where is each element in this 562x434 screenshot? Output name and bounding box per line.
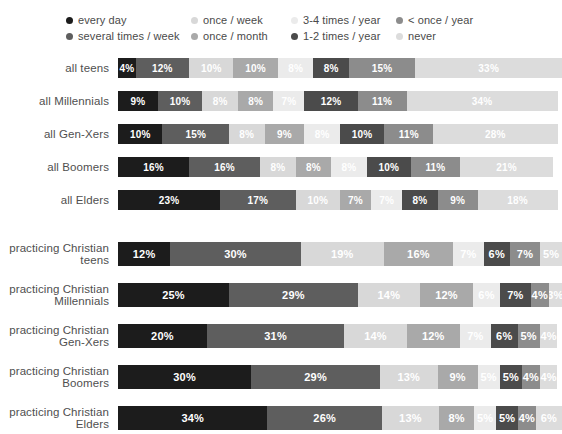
- bar-segment[interactable]: 5%: [474, 406, 496, 430]
- bar-segment[interactable]: 13%: [382, 406, 439, 430]
- legend-swatch-dot-icon: [396, 17, 403, 24]
- bar-segment[interactable]: 12%: [136, 58, 189, 78]
- bar-segment[interactable]: 7%: [460, 324, 491, 348]
- bar-segment[interactable]: 10%: [158, 91, 202, 111]
- bar-segment[interactable]: 8%: [278, 58, 314, 78]
- bar-segment[interactable]: 12%: [304, 91, 357, 111]
- bar-segment[interactable]: 8%: [439, 406, 474, 430]
- bar-segment[interactable]: 17%: [220, 190, 295, 210]
- bar-segment[interactable]: 8%: [260, 157, 296, 177]
- bar-segment[interactable]: 30%: [118, 365, 251, 389]
- bar-segment[interactable]: 13%: [380, 365, 438, 389]
- bar-segment[interactable]: 18%: [478, 190, 558, 210]
- bar-segment[interactable]: 6%: [536, 406, 562, 430]
- bar-segment[interactable]: 6%: [491, 324, 518, 348]
- bar-segment[interactable]: 31%: [207, 324, 345, 348]
- bar-segment[interactable]: 10%: [340, 124, 384, 144]
- legend-item[interactable]: never: [396, 29, 506, 43]
- bar-segment[interactable]: 10%: [367, 157, 411, 177]
- bar-segment[interactable]: 10%: [296, 190, 340, 210]
- bar-segment[interactable]: 7%: [500, 283, 531, 307]
- legend-item[interactable]: once / week: [191, 13, 291, 27]
- bar-segment[interactable]: 11%: [411, 157, 460, 177]
- bar-segment[interactable]: 11%: [384, 124, 433, 144]
- row-label-line: practicing Christian: [0, 324, 109, 337]
- bar-segment[interactable]: 16%: [189, 157, 260, 177]
- legend-item[interactable]: < once / year: [396, 13, 506, 27]
- bar-segment[interactable]: 5%: [496, 406, 518, 430]
- bar-segment[interactable]: 5%: [518, 324, 540, 348]
- bar-segment[interactable]: 34%: [407, 91, 558, 111]
- bar-segment[interactable]: 33%: [415, 58, 562, 78]
- legend-item[interactable]: 1-2 times / year: [291, 29, 396, 43]
- bar-segment[interactable]: 16%: [118, 157, 189, 177]
- bar-segment[interactable]: 16%: [384, 242, 454, 266]
- bar-segment[interactable]: 20%: [118, 324, 207, 348]
- bar-segment[interactable]: 4%: [540, 365, 558, 389]
- bar-segment[interactable]: 3%: [549, 283, 562, 307]
- bar-segment[interactable]: 8%: [402, 190, 438, 210]
- bar-segment[interactable]: 5%: [540, 242, 562, 266]
- legend-swatch-dot-icon: [191, 17, 198, 24]
- bar-segment[interactable]: 19%: [301, 242, 384, 266]
- bar-segment[interactable]: 5%: [500, 365, 522, 389]
- bar-segment[interactable]: 26%: [267, 406, 381, 430]
- row-label: practicing ChristianElders: [0, 406, 118, 431]
- bar-segment[interactable]: 23%: [118, 190, 220, 210]
- legend-item-label: once / week: [203, 13, 263, 27]
- bar-segment[interactable]: 10%: [233, 58, 277, 78]
- bar-segment[interactable]: 7%: [453, 242, 483, 266]
- bar-segment[interactable]: 11%: [358, 91, 407, 111]
- bar-segment[interactable]: 8%: [229, 124, 265, 144]
- bar-segment[interactable]: 9%: [438, 190, 478, 210]
- bar-segment[interactable]: 6%: [473, 283, 500, 307]
- bar-segment[interactable]: 9%: [265, 124, 305, 144]
- bar-segment[interactable]: 29%: [229, 283, 358, 307]
- legend-item[interactable]: 3-4 times / year: [291, 13, 396, 27]
- bar-segment[interactable]: 9%: [118, 91, 158, 111]
- bar-segment[interactable]: 4%: [531, 283, 549, 307]
- legend-item[interactable]: every day: [66, 13, 191, 27]
- bar-segment[interactable]: 15%: [162, 124, 229, 144]
- bar-segment[interactable]: 25%: [118, 283, 229, 307]
- bar-segment[interactable]: 8%: [313, 58, 349, 78]
- bar-segment[interactable]: 8%: [331, 157, 367, 177]
- bar-segment[interactable]: 7%: [273, 91, 304, 111]
- bar-segment[interactable]: 12%: [407, 324, 460, 348]
- legend-item[interactable]: once / month: [191, 29, 291, 43]
- bar-segment[interactable]: 12%: [420, 283, 473, 307]
- legend-item[interactable]: several times / week: [66, 29, 191, 43]
- chart-row: practicing Christianteens12%30%19%16%7%6…: [0, 242, 562, 266]
- bar-segment[interactable]: 8%: [202, 91, 238, 111]
- bar-segment[interactable]: 28%: [433, 124, 557, 144]
- bar-segment[interactable]: 29%: [251, 365, 380, 389]
- bar-segment[interactable]: 7%: [510, 242, 540, 266]
- bar-segment[interactable]: 14%: [358, 283, 420, 307]
- bar-segment[interactable]: 8%: [296, 157, 332, 177]
- bar-segment[interactable]: 4%: [540, 324, 558, 348]
- bar-segment[interactable]: 30%: [170, 242, 301, 266]
- bar-segment[interactable]: 4%: [118, 58, 136, 78]
- bar-segment[interactable]: 8%: [238, 91, 274, 111]
- bar-segment[interactable]: 4%: [522, 365, 540, 389]
- chart-group: practicing Christianteens12%30%19%16%7%6…: [0, 242, 562, 430]
- row-label-line: Elders: [0, 418, 109, 431]
- bar-segment[interactable]: 6%: [484, 242, 510, 266]
- bar-segment[interactable]: 7%: [340, 190, 371, 210]
- row-label-line: all Elders: [0, 194, 109, 207]
- bar-segment[interactable]: 9%: [438, 365, 478, 389]
- row-label: all Elders: [0, 194, 118, 207]
- bar-segment[interactable]: 7%: [371, 190, 402, 210]
- bar-segment[interactable]: 12%: [118, 242, 170, 266]
- bar-segment[interactable]: 14%: [344, 324, 406, 348]
- stacked-bar: 34%26%13%8%5%5%4%6%: [118, 406, 562, 430]
- bar-segment[interactable]: 10%: [189, 58, 233, 78]
- bar-segment[interactable]: 15%: [349, 58, 416, 78]
- bar-segment[interactable]: 34%: [118, 406, 267, 430]
- bar-segment[interactable]: 5%: [478, 365, 500, 389]
- bar-segment[interactable]: 10%: [118, 124, 162, 144]
- bar-segment[interactable]: 4%: [518, 406, 536, 430]
- bar-segment[interactable]: 8%: [304, 124, 340, 144]
- bar-segment[interactable]: 21%: [460, 157, 553, 177]
- chart-row: practicing ChristianGen-Xers20%31%14%12%…: [0, 324, 562, 348]
